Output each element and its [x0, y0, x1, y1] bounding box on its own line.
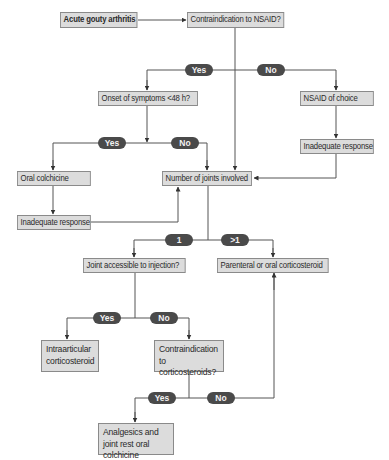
- label-access-yes: Yes: [93, 312, 121, 324]
- node-acute-gouty-arthritis: Acute gouty arthritis: [60, 12, 137, 28]
- label-joints-one: 1: [165, 234, 193, 246]
- node-inadequate-response-left: Inadequate response: [17, 215, 91, 230]
- node-parenteral-oral-corticosteroid: Parenteral or oral corticosteroid: [217, 258, 329, 273]
- node-nsaid-of-choice: NSAID of choice: [300, 91, 374, 106]
- node-onset-symptoms: Onset of symptoms <48 h?: [98, 91, 198, 106]
- label-nsaid-no: No: [257, 64, 285, 76]
- node-analgesics-joint-rest: Analgesics and joint rest oral colchicin…: [98, 423, 174, 455]
- label-cortico-yes: Yes: [148, 392, 176, 404]
- label-joints-many: >1: [221, 234, 249, 246]
- node-inadequate-response-right: Inadequate response: [300, 139, 374, 154]
- label-nsaid-yes: Yes: [185, 64, 213, 76]
- node-contraindication-corticosteroids: Contraindication to corticosteroids?: [154, 340, 224, 372]
- label-access-no: No: [150, 312, 178, 324]
- node-joint-accessible: Joint accessible to injection?: [83, 258, 186, 273]
- node-oral-colchicine: Oral colchicine: [17, 171, 91, 186]
- flowchart-canvas: Acute gouty arthritis Contraindication t…: [0, 0, 389, 460]
- node-intraarticular-corticosteroid: Intraarticular corticosteroid: [41, 340, 99, 372]
- node-contraindication-nsaid: Contraindication to NSAID?: [187, 12, 284, 28]
- label-cortico-no: No: [207, 392, 235, 404]
- label-onset-yes: Yes: [98, 137, 126, 149]
- label-onset-no: No: [171, 137, 199, 149]
- node-number-of-joints: Number of joints involved: [162, 171, 252, 186]
